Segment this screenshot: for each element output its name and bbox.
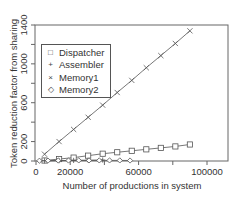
x-axis-label: Number of productions in system: [35, 180, 229, 191]
legend-label: Memory2: [59, 84, 99, 95]
y-tick-label: 0: [18, 158, 29, 163]
legend-label: Assembler: [59, 59, 104, 70]
diamond-marker: [107, 158, 112, 163]
x-marker-icon: ×: [45, 73, 56, 82]
square-marker: [173, 144, 178, 149]
plus-marker-icon: +: [45, 60, 56, 69]
legend-item-assembler: + Assembler: [45, 59, 107, 72]
legend-label: Memory1: [59, 72, 99, 83]
square-marker: [129, 148, 134, 153]
y-tick-label: 200: [18, 134, 29, 150]
square-marker-icon: □: [45, 48, 56, 57]
square-marker: [115, 150, 120, 155]
legend-item-memory1: × Memory1: [45, 71, 107, 84]
x-tick-label: 60000: [125, 166, 151, 177]
y-tick-label: 1000: [18, 53, 29, 74]
chart-canvas: 02006001000140002000060000100000: [0, 0, 236, 200]
square-marker: [187, 142, 192, 147]
diamond-marker: [76, 158, 81, 163]
x-tick-label: 20000: [57, 166, 83, 177]
y-tick-label: 1400: [18, 14, 29, 35]
diamond-marker: [37, 158, 42, 163]
legend-label: Dispatcher: [59, 47, 104, 58]
square-marker: [86, 153, 91, 158]
y-tick-label: 600: [18, 95, 29, 111]
legend: □ Dispatcher + Assembler × Memory1 ◇ Mem…: [41, 44, 111, 98]
diamond-marker: [127, 158, 132, 163]
x-tick-label: 100000: [191, 166, 223, 177]
square-marker: [100, 151, 105, 156]
square-marker: [158, 145, 163, 150]
diamond-marker-icon: ◇: [45, 85, 56, 94]
square-marker: [144, 147, 149, 152]
legend-item-memory2: ◇ Memory2: [45, 84, 107, 97]
diamond-marker: [97, 158, 102, 163]
y-axis-label: Token reduction factor from sharing: [8, 19, 19, 169]
x-tick-label: 0: [33, 166, 38, 177]
diamond-marker: [117, 158, 122, 163]
legend-item-dispatcher: □ Dispatcher: [45, 46, 107, 59]
